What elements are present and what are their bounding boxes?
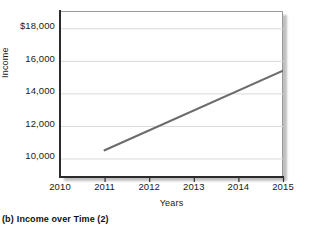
caption-tag: (b)	[2, 214, 14, 224]
x-tick-label-2012: 2012	[138, 181, 160, 192]
y-tick-label-14000: 14,000	[0, 85, 55, 96]
x-tick-label-2014: 2014	[228, 181, 250, 192]
x-tick-label-2011: 2011	[94, 181, 115, 192]
y-tick-label-12000: 12,000	[0, 118, 55, 129]
x-tick-label-2015: 2015	[272, 181, 294, 192]
data-series-income	[105, 71, 283, 151]
x-tick-label-2013: 2013	[183, 181, 205, 192]
plot-canvas	[60, 12, 283, 178]
x-tick-label-2010: 2010	[49, 181, 71, 192]
figure-income-over-time: $18,00016,00014,00012,00010,000 20102011…	[0, 0, 309, 234]
caption-text: Income over Time (2)	[17, 214, 109, 224]
data-line-income	[105, 71, 283, 151]
y-axis-title: Income	[0, 2, 16, 78]
x-axis-title: Years	[60, 198, 283, 208]
y-tick-label-10000: 10,000	[0, 150, 55, 161]
figure-caption: (b)Income over Time (2)	[2, 214, 109, 224]
y-axis-line	[59, 10, 61, 178]
plot-area	[60, 11, 283, 177]
gridline-group	[60, 29, 283, 159]
x-tick-label-group: 201020112012201320142015	[0, 181, 309, 197]
